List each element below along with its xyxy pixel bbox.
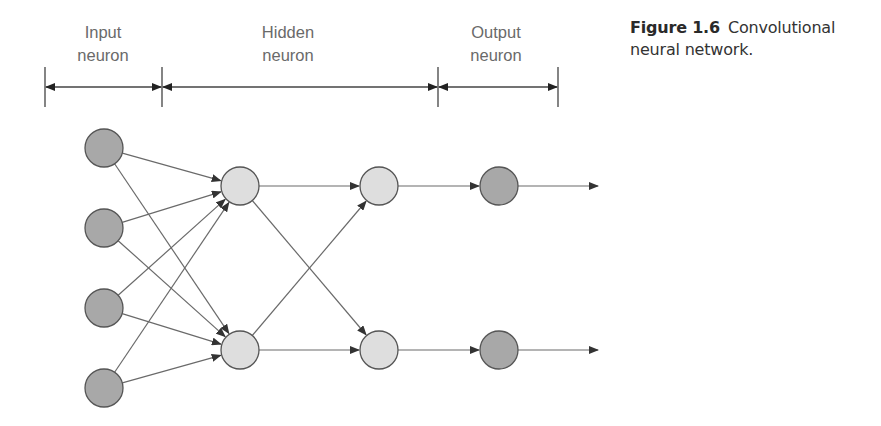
- caption-line2: neural network.: [630, 40, 753, 59]
- input-neuron: [85, 289, 123, 327]
- output-neuron: [480, 167, 518, 205]
- edge-input-hidden-1: [118, 241, 225, 337]
- input-neuron: [85, 369, 123, 407]
- edge-input-hidden-1: [118, 199, 225, 295]
- edge-input-hidden-1: [115, 164, 229, 334]
- layer-header: InputneuronHiddenneuronOutputneuron: [45, 23, 558, 107]
- nodes: [85, 129, 518, 407]
- edge-input-hidden-1: [122, 355, 220, 383]
- figure-caption: Figure 1.6Convolutional neural network.: [630, 17, 880, 61]
- header-sublabel-output: neuron: [470, 46, 521, 64]
- edges: [115, 153, 598, 383]
- hidden-2-neuron: [360, 331, 398, 369]
- header-label-hidden: Hidden: [262, 23, 314, 41]
- input-neuron: [85, 129, 123, 167]
- header-sublabel-hidden: neuron: [262, 46, 313, 64]
- header-label-input: Input: [85, 23, 122, 41]
- header-label-output: Output: [471, 23, 521, 41]
- figure-number: Figure 1.6: [630, 18, 720, 37]
- output-neuron: [480, 331, 518, 369]
- caption-line1: Convolutional: [728, 18, 835, 37]
- hidden-2-neuron: [360, 167, 398, 205]
- edge-input-hidden-1: [122, 153, 220, 181]
- edge-input-hidden-1: [115, 203, 229, 373]
- neural-network-diagram: InputneuronHiddenneuronOutputneuron: [0, 0, 881, 426]
- header-sublabel-input: neuron: [77, 46, 128, 64]
- input-neuron: [85, 209, 123, 247]
- hidden-1-neuron: [221, 331, 259, 369]
- hidden-1-neuron: [221, 167, 259, 205]
